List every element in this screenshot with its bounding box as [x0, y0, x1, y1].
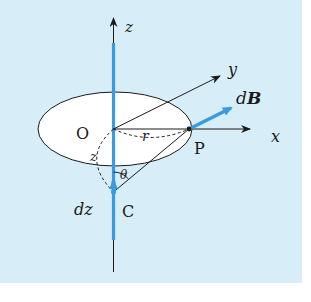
magnetic-field-diagram: z y x O P C r z θ dz dB — [0, 0, 311, 302]
db-label-d: d — [236, 88, 247, 108]
point-c-label: C — [122, 202, 134, 221]
db-label: dB — [236, 88, 261, 108]
y-axis-label: y — [227, 60, 238, 79]
height-label: z — [89, 149, 97, 164]
dz-label: dz — [74, 200, 93, 219]
theta-label: θ — [120, 168, 128, 182]
point-p-label: P — [194, 139, 205, 158]
z-axis-label: z — [124, 18, 133, 36]
db-label-b: B — [246, 88, 261, 108]
x-axis-label: x — [271, 127, 280, 146]
point-c-dot — [111, 190, 116, 195]
point-p-dot — [187, 127, 192, 132]
origin-label: O — [76, 124, 89, 143]
